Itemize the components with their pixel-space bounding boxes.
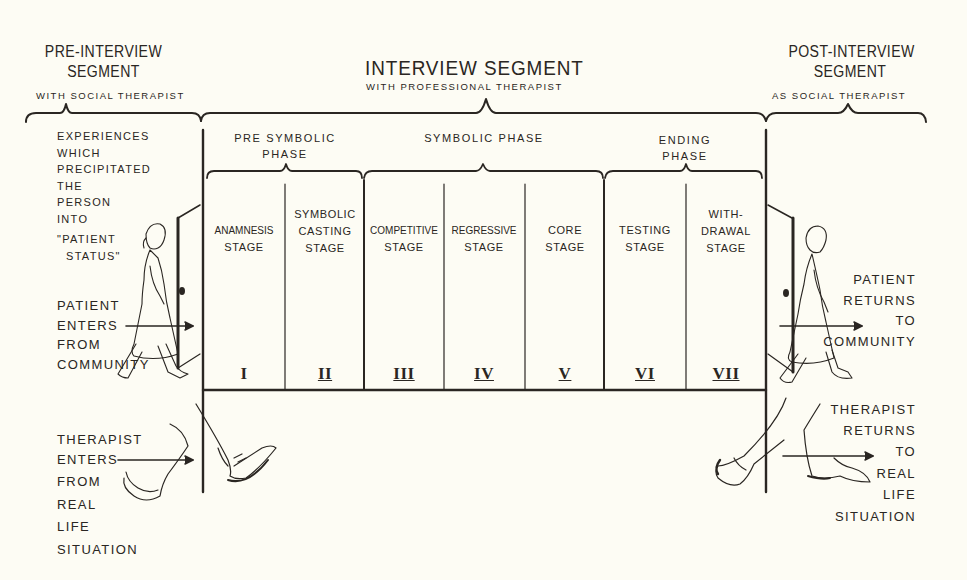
phase-ending: ENDING PHASE (606, 132, 764, 164)
pre-interview-subtitle: WITH SOCIAL THERAPIST (36, 90, 185, 101)
post-interview-title-line-1: POST-INTERVIEW (788, 42, 911, 62)
phase-label-line: SYMBOLIC PHASE (364, 130, 604, 146)
post-interview-subtitle: AS SOCIAL THERAPIST (772, 90, 906, 101)
stage-7-label: WITH- DRAWAL STAGE (686, 206, 766, 257)
stage-label-line: STAGE (364, 239, 444, 256)
stage-label-line: WITH- (686, 206, 766, 223)
right-door-icon (768, 205, 793, 372)
note-line: PRECIPITATED (57, 161, 151, 178)
interview-segment-subtitle: WITH PROFESSIONAL THERAPIST (366, 81, 563, 92)
note-line: COMMUNITY (57, 355, 150, 375)
stage-frame (203, 130, 766, 492)
stage-label-line: STAGE (285, 240, 365, 257)
stage-label-line: STAGE (204, 239, 284, 256)
stage-label-line: STAGE (444, 239, 524, 256)
segment-braces (26, 99, 926, 122)
stage-3-numeral: III (364, 364, 444, 384)
note-line: INTO (57, 211, 151, 228)
stage-6-label: TESTING STAGE (605, 222, 685, 256)
note-line: FROM (57, 335, 150, 355)
phase-label-line: PRE SYMBOLIC (206, 130, 364, 146)
note-line: SITUATION (57, 540, 143, 560)
stage-2-label: SYMBOLIC CASTING STAGE (285, 206, 365, 257)
therapist-legs-in-icon (124, 404, 276, 500)
therapist-returns-note: THERAPIST RETURNS TO REAL LIFE SITUATION (820, 400, 916, 526)
stage-label-line: COMPETITIVE (364, 222, 444, 239)
pre-interview-title-line-2: SEGMENT (44, 62, 163, 82)
patient-enters-note: PATIENT ENTERS FROM COMMUNITY (57, 296, 150, 374)
stage-label-line: REGRESSIVE (444, 222, 524, 239)
patient-returns-note: PATIENT RETURNS TO COMMUNITY (820, 270, 916, 351)
pre-interview-title-line-1: PRE-INTERVIEW (44, 42, 163, 62)
stage-label-line: CASTING (285, 223, 365, 240)
note-line: WHICH (57, 145, 151, 162)
phase-label-line: ENDING (606, 132, 764, 148)
stage-5-numeral: V (525, 364, 605, 384)
note-line: RETURNS (820, 421, 916, 441)
stage-label-line: DRAWAL (686, 223, 766, 240)
note-line: SITUATION (820, 507, 916, 527)
note-line: FROM (57, 472, 143, 492)
note-line: PERSON (57, 194, 151, 211)
stage-4-label: REGRESSIVE STAGE (444, 222, 524, 256)
post-interview-heading: POST-INTERVIEW SEGMENT (780, 42, 920, 82)
stage-4-numeral: IV (444, 364, 524, 384)
phase-label-line: PHASE (206, 146, 364, 162)
note-line: REAL (820, 464, 916, 484)
note-line: COMMUNITY (820, 332, 916, 352)
stage-label-line: ANAMNESIS (204, 222, 284, 239)
interview-process-diagram: PRE-INTERVIEW SEGMENT WITH SOCIAL THERAP… (0, 0, 967, 580)
therapist-enters-note: THERAPIST ENTERS FROM REAL LIFE SITUATIO… (57, 430, 143, 559)
note-line: THERAPIST (820, 400, 916, 420)
post-interview-title-line-2: SEGMENT (788, 62, 911, 82)
phase-symbolic: SYMBOLIC PHASE (364, 130, 604, 146)
pre-interview-heading: PRE-INTERVIEW SEGMENT (36, 42, 171, 82)
note-line: STATUS" (57, 248, 151, 265)
note-line: LIFE (820, 485, 916, 505)
note-line: REAL (57, 495, 143, 515)
stage-label-line: STAGE (686, 240, 766, 257)
note-line: EXPERIENCES (57, 128, 151, 145)
stage-label-line: STAGE (525, 239, 605, 256)
note-line: TO (820, 442, 916, 462)
stage-1-numeral: I (204, 364, 284, 384)
phase-braces (207, 164, 762, 178)
note-line: LIFE (57, 517, 143, 537)
note-line: ENTERS (57, 316, 150, 336)
note-line: ENTERS (57, 450, 143, 470)
stage-label-line: SYMBOLIC (285, 206, 365, 223)
note-line: THERAPIST (57, 430, 143, 450)
note-line: THE (57, 178, 151, 195)
arrows (118, 322, 873, 464)
stage-label-line: TESTING (605, 222, 685, 239)
note-line: RETURNS (820, 291, 916, 311)
phase-label-line: PHASE (606, 148, 764, 164)
left-door-icon (178, 205, 200, 368)
interview-segment-title: INTERVIEW SEGMENT (365, 56, 584, 80)
stage-2-numeral: II (285, 364, 365, 384)
stage-5-label: CORE STAGE (525, 222, 605, 256)
note-line: TO (820, 311, 916, 331)
stage-7-numeral: VII (686, 364, 766, 384)
stage-label-line: STAGE (605, 239, 685, 256)
stage-label-line: CORE (525, 222, 605, 239)
note-line: PATIENT (57, 296, 150, 316)
experiences-note: EXPERIENCES WHICH PRECIPITATED THE PERSO… (57, 128, 151, 264)
note-line: "PATIENT (57, 231, 151, 248)
stage-3-label: COMPETITIVE STAGE (364, 222, 444, 256)
note-line: PATIENT (820, 270, 916, 290)
phase-pre-symbolic: PRE SYMBOLIC PHASE (206, 130, 364, 162)
stage-6-numeral: VI (605, 364, 685, 384)
stage-1-label: ANAMNESIS STAGE (204, 222, 284, 256)
